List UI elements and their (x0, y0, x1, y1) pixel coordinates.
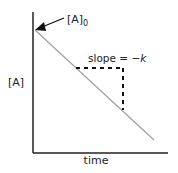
concentration-line (35, 30, 154, 140)
initial-arrow-shaft (42, 18, 64, 27)
initial-concentration-label: [A]0 (67, 13, 88, 28)
slope-label: slope = −k (88, 52, 147, 64)
y-axis-label: [A] (8, 76, 24, 89)
arrow-head-icon (35, 22, 46, 31)
x-axis-label: time (84, 154, 109, 167)
zero-order-kinetics-diagram: [A]0 slope = −k [A] time (0, 0, 178, 173)
diagram-canvas: [A]0 slope = −k [A] time (0, 0, 178, 173)
